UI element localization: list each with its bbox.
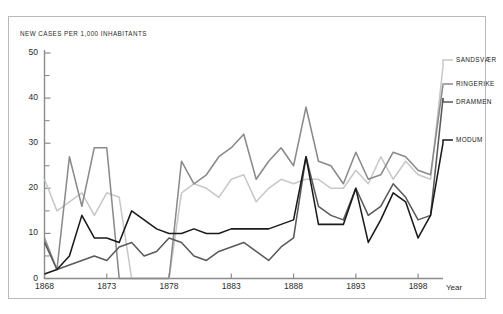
series-line-drammen xyxy=(45,98,444,269)
axis-lines xyxy=(44,50,443,279)
chart-plot-area xyxy=(0,0,503,314)
series-line-sandsvr xyxy=(45,67,444,279)
series-line-ringerike xyxy=(45,85,444,279)
data-series xyxy=(45,67,444,279)
legend-leader-lines xyxy=(443,60,453,143)
